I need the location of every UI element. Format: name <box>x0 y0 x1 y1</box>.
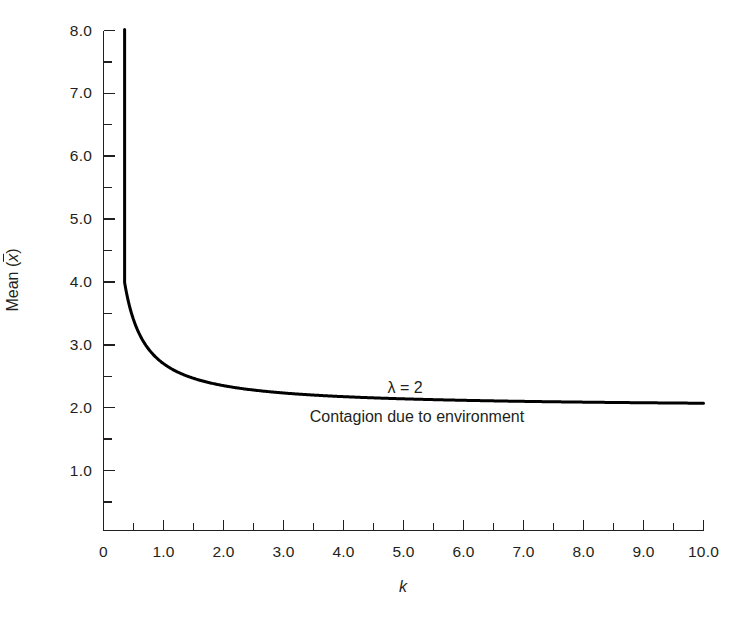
y-axis-title-suffix: ) <box>4 248 21 253</box>
x-tick-label: 7.0 <box>512 543 534 561</box>
y-tick-label: 2.0 <box>52 399 92 417</box>
x-tick-label: 10.0 <box>688 543 719 561</box>
x-tick-label: 1.0 <box>152 543 174 561</box>
x-tick-label: 2.0 <box>212 543 234 561</box>
x-tick-label: 9.0 <box>632 543 654 561</box>
y-axis-title-prefix: Mean ( <box>4 262 21 312</box>
x-tick-label: 0 <box>99 543 108 561</box>
x-tick-label: 6.0 <box>452 543 474 561</box>
x-tick-label: 3.0 <box>272 543 294 561</box>
x-tick-label: 8.0 <box>572 543 594 561</box>
y-tick-label: 7.0 <box>52 84 92 102</box>
annotation-contagion-caption: Contagion due to environment <box>310 408 524 426</box>
y-axis-title-variable: x <box>4 254 21 262</box>
data-line-mean <box>125 30 704 404</box>
x-tick-label: 4.0 <box>332 543 354 561</box>
plot-canvas <box>0 0 742 625</box>
y-tick-label: 6.0 <box>52 147 92 165</box>
y-tick-label: 4.0 <box>52 273 92 291</box>
y-tick-label: 8.0 <box>52 22 92 40</box>
y-tick-label: 1.0 <box>52 462 92 480</box>
y-axis-title: Mean (x) <box>4 248 22 311</box>
data-series-group <box>125 30 704 404</box>
y-tick-label: 3.0 <box>52 336 92 354</box>
x-tick-label: 5.0 <box>392 543 414 561</box>
chart-figure: 1.02.03.04.05.06.07.08.0 01.02.03.04.05.… <box>0 0 742 625</box>
annotation-lambda-value: λ = 2 <box>387 379 422 397</box>
x-axis-title: k <box>399 578 407 596</box>
axes-group <box>104 31 704 531</box>
ticks-group <box>104 31 704 531</box>
y-tick-label: 5.0 <box>52 210 92 228</box>
